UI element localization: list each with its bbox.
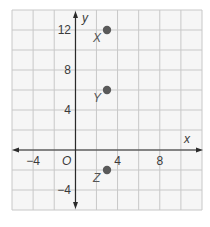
x-tick-label: 4 (114, 154, 121, 168)
point-label-y: Y (93, 91, 102, 105)
x-tick-label: −4 (26, 154, 40, 168)
y-tick-label: 12 (58, 23, 72, 37)
x-tick-label: 8 (156, 154, 163, 168)
y-axis-label: y (81, 11, 89, 25)
origin-label: O (62, 154, 71, 168)
data-point-y (103, 86, 111, 94)
data-point-x (103, 26, 111, 34)
y-tick-label: 8 (64, 63, 71, 77)
x-axis-label: x (183, 132, 191, 146)
point-label-x: X (92, 31, 102, 45)
y-tick-label: −4 (57, 183, 71, 197)
coordinate-plane: x y O −4481284−4 XYZ (0, 0, 210, 227)
y-tick-label: 4 (64, 103, 71, 117)
point-label-z: Z (92, 171, 101, 185)
data-point-z (103, 166, 111, 174)
